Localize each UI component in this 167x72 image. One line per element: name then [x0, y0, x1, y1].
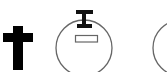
partial-circle-icon — [120, 0, 167, 72]
cross-icon — [0, 0, 40, 72]
circle-marker-icon — [50, 0, 120, 72]
